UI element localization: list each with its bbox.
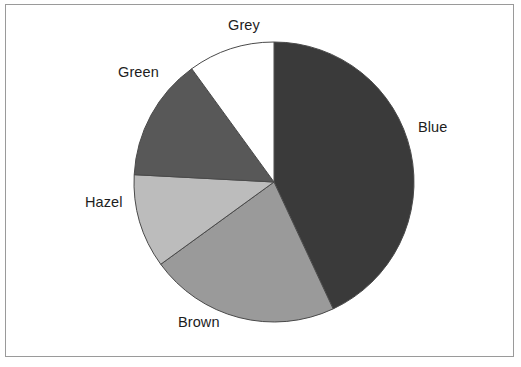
pie-label-brown: Brown (178, 314, 220, 330)
pie-label-green: Green (118, 64, 159, 80)
pie-label-blue: Blue (418, 119, 447, 135)
pie-label-grey: Grey (228, 17, 260, 33)
pie-chart-page: Grey Green Hazel Brown Blue (0, 0, 521, 367)
pie-chart (0, 0, 521, 367)
pie-slice-group (134, 42, 414, 322)
pie-label-hazel: Hazel (85, 194, 123, 210)
